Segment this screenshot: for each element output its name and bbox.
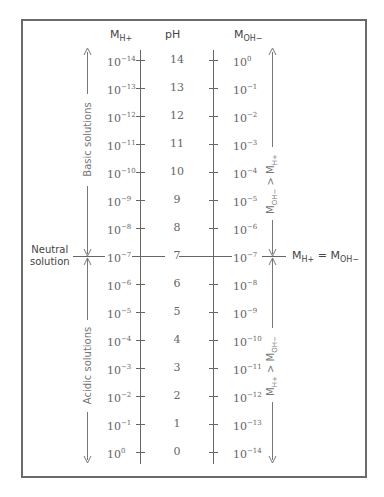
neutral-line-left xyxy=(73,256,105,257)
arrow-up-icon xyxy=(268,48,277,56)
h-axis-tick xyxy=(136,452,145,453)
ph-value: 14 xyxy=(162,54,192,66)
basic-arrow-top-line xyxy=(87,52,88,94)
oh-concentration-label: 10−13 xyxy=(233,417,262,433)
h-axis-tick xyxy=(136,228,145,229)
acidic-arrow-bottom-line xyxy=(87,412,88,460)
h-concentration-label: 100 xyxy=(107,445,125,461)
oh-concentration-label: 100 xyxy=(233,53,251,69)
h-axis-tick xyxy=(136,284,145,285)
oh-concentration-label: 10−11 xyxy=(233,361,262,377)
h-concentration-label: 10−3 xyxy=(107,361,131,377)
basic-arrow-bottom-line xyxy=(87,186,88,254)
ph-value: 3 xyxy=(162,362,192,374)
h-concentration-label: 10−9 xyxy=(107,193,131,209)
h-concentration-label: 10−5 xyxy=(107,305,131,321)
oh-concentration-label: 10−2 xyxy=(233,109,257,125)
ph-value: 1 xyxy=(162,418,192,430)
ph-value: 12 xyxy=(162,110,192,122)
neutral-solution-label: Neutralsolution xyxy=(30,244,70,268)
h-axis-tick xyxy=(136,144,145,145)
h-concentration-label: 10−4 xyxy=(107,333,131,349)
h-concentration-label: 10−7 xyxy=(107,249,131,265)
arrow-up-icon xyxy=(268,258,277,266)
ph-value: 0 xyxy=(162,446,192,458)
oh-concentration-label: 10−6 xyxy=(233,221,257,237)
oh-concentration-label: 10−14 xyxy=(233,445,262,461)
header-ph: pH xyxy=(165,28,180,41)
ph-value: 5 xyxy=(162,306,192,318)
h-axis-tick xyxy=(136,312,145,313)
oh-gt-h-arrow-top-line xyxy=(272,52,273,147)
acidic-arrow-top-line xyxy=(87,258,88,320)
h-concentration-label: 10−8 xyxy=(107,221,131,237)
h-concentration-label: 10−13 xyxy=(107,81,136,97)
oh-axis-line xyxy=(213,50,214,464)
arrow-down-icon xyxy=(83,455,92,463)
h-concentration-label: 10−6 xyxy=(107,277,131,293)
oh-axis-tick xyxy=(209,396,218,397)
h-axis-tick xyxy=(136,396,145,397)
oh-concentration-label: 10−3 xyxy=(233,137,257,153)
oh-concentration-label: 10−7 xyxy=(233,249,257,265)
h-axis-tick xyxy=(136,116,145,117)
ph-value: 9 xyxy=(162,194,192,206)
oh-concentration-label: 10−10 xyxy=(233,333,262,349)
ph-value: 8 xyxy=(162,222,192,234)
h-axis-tick xyxy=(136,200,145,201)
oh-concentration-label: 10−5 xyxy=(233,193,257,209)
h-concentration-label: 10−10 xyxy=(107,165,136,181)
h-axis-line xyxy=(140,50,141,464)
oh-axis-tick xyxy=(209,172,218,173)
oh-axis-tick xyxy=(209,88,218,89)
h-concentration-label: 10−12 xyxy=(107,109,136,125)
h-axis-tick xyxy=(136,172,145,173)
h-axis-tick xyxy=(136,424,145,425)
oh-concentration-label: 10−8 xyxy=(233,277,257,293)
oh-concentration-label: 10−4 xyxy=(233,165,257,181)
h-concentration-label: 10−11 xyxy=(107,137,136,153)
oh-axis-tick xyxy=(209,340,218,341)
oh-concentration-label: 10−9 xyxy=(233,305,257,321)
h-concentration-label: 10−14 xyxy=(107,53,136,69)
ph-value: 2 xyxy=(162,390,192,402)
arrow-down-icon xyxy=(268,455,277,463)
neutral-line-mid2 xyxy=(179,256,232,257)
ph-value: 4 xyxy=(162,334,192,346)
arrow-up-icon xyxy=(83,258,92,266)
oh-axis-tick xyxy=(209,368,218,369)
oh-axis-tick xyxy=(209,144,218,145)
h-gt-oh-arrow-top-line xyxy=(272,258,273,328)
oh-axis-tick xyxy=(209,116,218,117)
ph-value: 13 xyxy=(162,82,192,94)
neutral-line-mid1 xyxy=(132,256,165,257)
ph-value: 6 xyxy=(162,278,192,290)
ph-value: 10 xyxy=(162,166,192,178)
h-concentration-label: 10−2 xyxy=(107,389,131,405)
h-axis-tick xyxy=(136,60,145,61)
h-axis-tick xyxy=(136,88,145,89)
oh-axis-tick xyxy=(209,60,218,61)
arrow-up-icon xyxy=(83,48,92,56)
oh-axis-tick xyxy=(209,228,218,229)
h-axis-tick xyxy=(136,368,145,369)
h-greater-than-oh-label: MH+ > MOH− xyxy=(265,331,279,401)
oh-axis-tick xyxy=(209,284,218,285)
neutral-line-right xyxy=(262,256,286,257)
oh-axis-tick xyxy=(209,200,218,201)
header-h-concentration: MH+ xyxy=(110,28,132,43)
oh-axis-tick xyxy=(209,452,218,453)
oh-greater-than-h-label: MOH− > MH+ xyxy=(265,149,279,219)
oh-concentration-label: 10−12 xyxy=(233,389,262,405)
header-oh-concentration: MOH− xyxy=(234,28,263,43)
oh-axis-tick xyxy=(209,424,218,425)
h-concentration-label: 10−1 xyxy=(107,417,131,433)
equal-concentration-label: MH+ = MOH− xyxy=(292,249,359,264)
ph-value: 11 xyxy=(162,138,192,150)
arrow-down-icon xyxy=(268,248,277,256)
acidic-solutions-label: Acidic solutions xyxy=(82,319,93,413)
oh-axis-tick xyxy=(209,312,218,313)
oh-concentration-label: 10−1 xyxy=(233,81,257,97)
basic-solutions-label: Basic solutions xyxy=(82,95,93,185)
arrow-down-icon xyxy=(83,248,92,256)
